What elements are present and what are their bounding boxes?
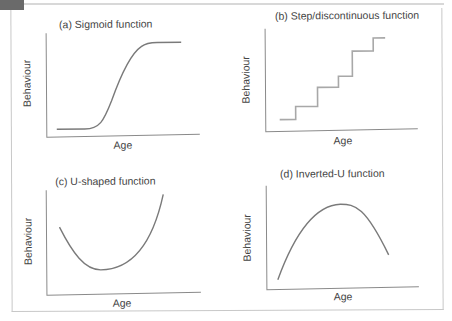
- panel-a-sigmoid: (a) Sigmoid function Behaviour Age: [20, 17, 200, 151]
- panel-c-xlabel: Age: [113, 297, 132, 309]
- panel-d-ylabel: Behaviour: [240, 214, 252, 262]
- panel-d-title: (d) Inverted-U function: [280, 167, 385, 180]
- panel-a-xlabel: Age: [114, 139, 133, 151]
- panel-a-ylabel: Behaviour: [20, 59, 32, 107]
- panel-c-u: (c) U-shaped function Behaviour Age: [21, 174, 201, 309]
- panel-d-inverted-u: (d) Inverted-U function Behaviour Age: [240, 167, 419, 303]
- panel-b-curve: [279, 38, 386, 120]
- panel-a-axes: [46, 32, 200, 137]
- panel-a-title: (a) Sigmoid function: [59, 18, 153, 31]
- panel-a-curve: [56, 42, 182, 129]
- figure: (a) Sigmoid function Behaviour Age (b) S…: [0, 0, 452, 321]
- panel-b-step: (b) Step/discontinuous function Behaviou…: [239, 9, 420, 147]
- panel-b-axes: [265, 28, 418, 132]
- panel-d-axes: [266, 185, 419, 290]
- panel-c-title: (c) U-shaped function: [55, 174, 156, 187]
- panel-b-title: (b) Step/discontinuous function: [275, 9, 419, 22]
- panel-b-ylabel: Behaviour: [239, 56, 251, 104]
- panel-c-ylabel: Behaviour: [21, 217, 33, 265]
- panel-b-xlabel: Age: [333, 134, 352, 146]
- panel-c-axes: [46, 189, 201, 295]
- panel-c-curve: [59, 194, 164, 270]
- panel-d-xlabel: Age: [334, 290, 353, 302]
- panel-d-curve: [277, 204, 389, 280]
